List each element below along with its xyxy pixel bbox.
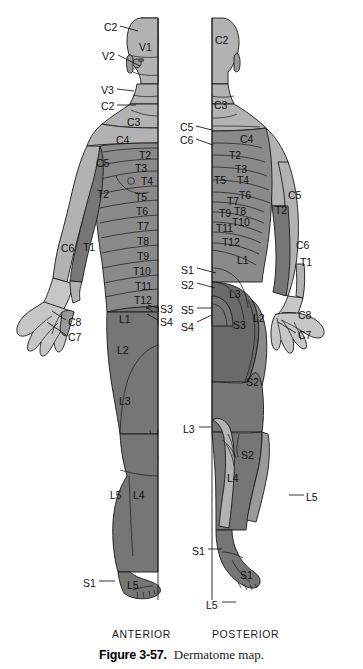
dermatome-label: C2 (101, 101, 114, 112)
dermatome-label: V3 (101, 85, 114, 96)
dermatome-label: T3 (135, 163, 147, 174)
dermatome-label: T12 (134, 295, 152, 306)
dermatome-label: C6 (61, 243, 74, 254)
dermatome-label: S2 (181, 280, 194, 291)
dermatome-label: C2 (104, 22, 117, 33)
dermatome-label: T11 (135, 281, 152, 292)
dermatome-label: T2 (275, 205, 287, 216)
dermatome-label: T9 (137, 251, 149, 262)
figure-number: Figure 3-57. (99, 648, 167, 662)
dermatome-label: L5 (110, 490, 121, 501)
dermatome-label: T4 (237, 175, 249, 186)
dermatome-label: T10 (232, 217, 250, 228)
dermatome-label: T6 (136, 206, 148, 217)
label-leader-line (197, 315, 212, 322)
dermatome-label: C5 (180, 122, 193, 133)
dermatome-label: S3 (160, 304, 173, 315)
dermatome-label: L1 (237, 255, 248, 266)
dermatome-label: L4 (227, 473, 238, 484)
figure-caption: Figure 3-57.Dermatome map. (0, 645, 363, 663)
dermatome-label: L5 (306, 492, 317, 503)
view-label-posterior: POSTERIOR (212, 628, 279, 640)
dermatome-label: C5 (288, 190, 301, 201)
dermatome-label: T1 (83, 242, 95, 253)
dermatome-label: S4 (181, 322, 194, 333)
dermatome-label: L2 (117, 345, 128, 356)
dermatome-label: T1 (300, 257, 312, 268)
label-leader-line (196, 126, 212, 130)
dermatome-label: S4 (160, 317, 173, 328)
dermatome-label: C6 (296, 240, 309, 251)
dermatome-label: S1 (240, 570, 253, 581)
dermatome-label: T5 (135, 192, 147, 203)
dermatome-label: L3 (183, 424, 194, 435)
dermatome-label: T12 (222, 237, 240, 248)
dermatome-label: C4 (116, 135, 129, 146)
dermatome-label: C2 (215, 35, 228, 46)
dermatome-label: C3 (127, 117, 140, 128)
anterior-body (17, 18, 161, 600)
dermatome-label: C7 (68, 332, 81, 343)
dermatome-label: T7 (137, 221, 149, 232)
dermatome-label: L5 (206, 600, 217, 611)
dermatome-label: S1 (181, 265, 194, 276)
dermatome-label: T4 (141, 176, 153, 187)
dermatome-label: L3 (229, 289, 240, 300)
dermatome-label: S5 (181, 305, 194, 316)
dermatome-label: L1 (119, 314, 130, 325)
figure-title: Dermatome map. (174, 647, 264, 662)
view-label-anterior: ANTERIOR (112, 628, 171, 640)
dermatome-label: C3 (214, 100, 227, 111)
dermatome-label: L3 (119, 396, 130, 407)
dermatome-label: L2 (253, 313, 264, 324)
dermatome-label: C8 (298, 310, 311, 321)
dermatome-label: L5 (127, 580, 138, 591)
dermatome-label: S2 (246, 377, 259, 388)
dermatome-label: T10 (133, 266, 151, 277)
dermatome-label: T2 (139, 150, 151, 161)
label-leader-line (117, 89, 134, 91)
dermatome-label: C7 (298, 330, 311, 341)
dermatome-label: T3 (235, 164, 247, 175)
dermatome-label: S2 (241, 450, 254, 461)
dermatome-label: C6 (180, 135, 193, 146)
dermatome-label: T8 (234, 206, 246, 217)
dermatome-label: C8 (68, 317, 81, 328)
dermatome-label: V2 (102, 51, 115, 62)
dermatome-label: T11 (216, 223, 233, 234)
dermatome-label: T2 (97, 189, 109, 200)
dermatome-label: T8 (137, 236, 149, 247)
label-leader-line (196, 139, 213, 145)
dermatome-label: V1 (139, 42, 152, 53)
dermatome-label: S3 (233, 320, 246, 331)
dermatome-label: T2 (229, 150, 241, 161)
dermatome-label: C5 (96, 158, 109, 169)
dermatome-label: T9 (219, 208, 231, 219)
dermatome-label: T5 (214, 175, 226, 186)
dermatome-label: T6 (239, 190, 251, 201)
dermatome-label: S1 (192, 546, 205, 557)
dermatome-figure: .o { fill:none; stroke:#1a1a1a; stroke-w… (0, 0, 363, 669)
dermatome-label: C4 (240, 134, 253, 145)
dermatome-label: L4 (133, 490, 144, 501)
dermatome-label: S1 (83, 578, 96, 589)
